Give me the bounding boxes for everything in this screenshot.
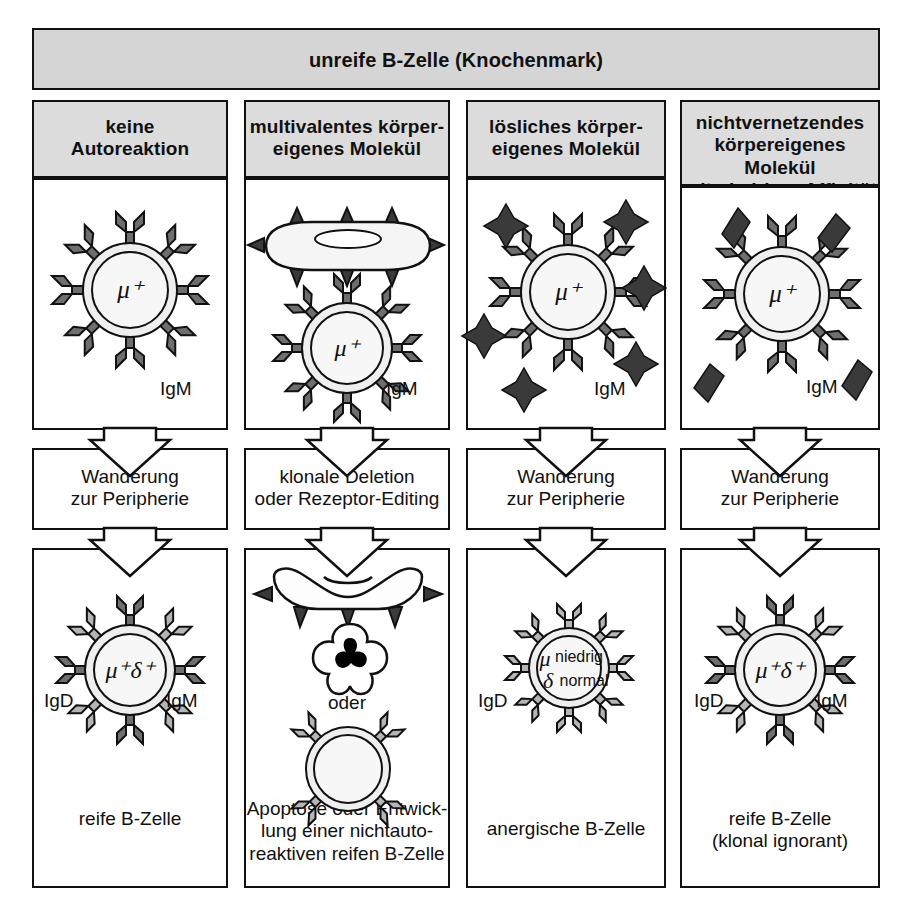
b-cell-tolerance-diagram: unreife B-Zelle (Knochenmark) keine Auto… <box>0 0 912 916</box>
arrow-c1-r1 <box>90 428 170 476</box>
arrow-c2-r2 <box>307 528 387 576</box>
arrow-c4-r2 <box>740 528 820 576</box>
arrow-c3-r2 <box>526 528 606 576</box>
arrow-c1-r2 <box>90 528 170 576</box>
arrow-c2-r1 <box>307 428 387 476</box>
arrow-c3-r1 <box>526 428 606 476</box>
arrow-c4-r1 <box>740 428 820 476</box>
flow-arrows-layer <box>0 0 912 916</box>
